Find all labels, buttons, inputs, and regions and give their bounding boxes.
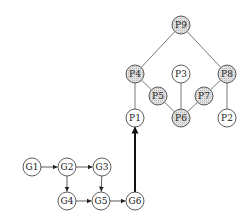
node-label: G6 [129,196,142,206]
node-p1: P1 [126,109,144,127]
node-label: G1 [26,162,39,172]
node-label: P4 [129,69,141,79]
node-label: G2 [61,162,74,172]
node-label: P3 [175,69,187,79]
node-label: P6 [175,113,187,123]
node-label: P2 [221,113,233,123]
node-g1: G1 [23,158,41,176]
node-p4: P4 [126,65,144,83]
graph-diagram: G1G2G3G4G5G6P1P2P3P4P5P6P7P8P9 [0,0,252,222]
node-p6: P6 [172,109,190,127]
edge-p5-p6 [165,102,175,112]
node-p9: P9 [172,16,190,34]
node-g5: G5 [92,192,110,210]
edge-p4-p5 [142,80,152,90]
node-p7: P7 [195,87,213,105]
edge-p7-p6 [188,102,198,112]
nodes-layer: G1G2G3G4G5G6P1P2P3P4P5P6P7P8P9 [23,16,236,210]
node-g2: G2 [58,158,76,176]
edge-p8-p7 [211,80,221,90]
node-g3: G3 [93,158,111,176]
node-label: G4 [61,196,74,206]
edge-p9-p8 [187,32,221,68]
node-label: P7 [198,91,210,101]
node-label: P1 [129,113,141,123]
node-p3: P3 [172,65,190,83]
node-label: G5 [95,196,108,206]
node-label: P8 [221,69,233,79]
node-p2: P2 [218,109,236,127]
edge-p9-p4 [141,32,175,68]
node-label: G3 [96,162,109,172]
node-g4: G4 [58,192,76,210]
node-p8: P8 [218,65,236,83]
node-g6: G6 [126,192,144,210]
node-label: P9 [175,20,187,30]
node-p5: P5 [149,87,167,105]
node-label: P5 [152,91,164,101]
